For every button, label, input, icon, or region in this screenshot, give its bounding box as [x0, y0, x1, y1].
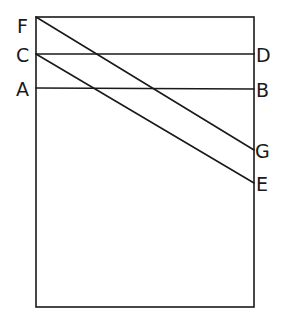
segment-fg [36, 17, 254, 150]
outer-rectangle [36, 17, 254, 307]
label-a: A [16, 78, 29, 100]
label-c: C [16, 44, 29, 66]
label-e: E [256, 173, 268, 195]
label-f: F [17, 15, 28, 37]
geometry-diagram: F C A D B G E [0, 0, 284, 325]
segment-ce [36, 54, 254, 183]
label-d: D [256, 44, 271, 66]
label-b: B [256, 79, 269, 101]
segment-ab [36, 88, 254, 89]
label-g: G [255, 140, 270, 162]
